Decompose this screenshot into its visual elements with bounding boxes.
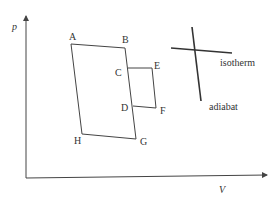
isotherm-label: isotherm <box>220 57 255 68</box>
adiabat-line <box>192 27 201 101</box>
point-label-d: D <box>121 102 128 113</box>
x-axis <box>26 175 267 178</box>
point-label-c: C <box>115 67 122 78</box>
point-label-b: B <box>122 34 129 45</box>
y-axis-label: p <box>11 21 17 32</box>
point-label-g: G <box>140 136 147 147</box>
adiabat-label: adiabat <box>209 101 238 112</box>
point-label-a: A <box>69 31 77 42</box>
x-axis-label: V <box>219 184 227 195</box>
point-label-e: E <box>154 60 160 71</box>
cycle-cefd <box>128 68 156 108</box>
cycle-abgh <box>71 44 136 139</box>
isotherm-line <box>171 48 232 53</box>
pv-diagram: p V A B C E D F H G isotherm adiabat <box>0 0 279 202</box>
point-label-h: H <box>74 135 81 146</box>
point-label-f: F <box>160 105 166 116</box>
